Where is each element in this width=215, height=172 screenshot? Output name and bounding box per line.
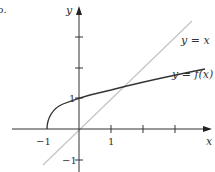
x-axis-arrow-icon — [203, 126, 212, 132]
label-y-equals-x: y = x — [180, 34, 210, 47]
x-tick-label-1: 1 — [108, 136, 114, 147]
corner-label: b. — [0, 4, 7, 15]
y-tick-label-1: 1 — [69, 93, 75, 104]
x-tick-label-neg1: −1 — [36, 136, 51, 147]
function-graph: b. y x −1 1 1 −1 y = x y = f(x) — [0, 0, 215, 172]
y-axis-label: y — [65, 4, 73, 17]
label-y-equals-f-of-x: y = f(x) — [171, 68, 213, 81]
y-tick-label-neg1: −1 — [62, 155, 77, 166]
y-axis-arrow-icon — [76, 6, 82, 15]
x-axis-label: x — [206, 135, 213, 148]
line-y-equals-x — [43, 21, 192, 165]
